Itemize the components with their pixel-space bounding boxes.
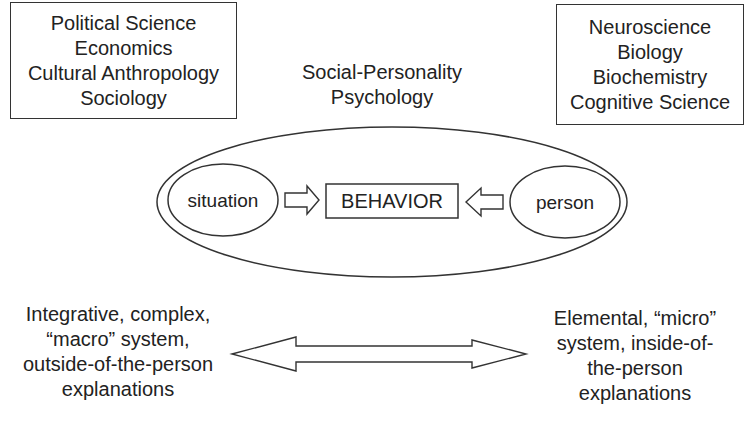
micro-line-1: Elemental, “micro” — [540, 306, 730, 331]
micro-line-3: the-person — [540, 356, 730, 381]
macro-explanation-text: Integrative, complex, “macro” system, ou… — [8, 302, 228, 402]
person-to-behavior-arrow — [466, 188, 503, 216]
micro-line-2: system, inside-of- — [540, 331, 730, 356]
situation-label: situation — [188, 190, 259, 211]
macro-line-2: “macro” system, — [8, 327, 228, 352]
behavior-label: BEHAVIOR — [341, 190, 443, 212]
macro-micro-double-arrow — [232, 337, 526, 371]
situation-to-behavior-arrow — [285, 186, 319, 214]
macro-line-3: outside-of-the-person — [8, 352, 228, 377]
micro-line-4: explanations — [540, 381, 730, 406]
micro-explanation-text: Elemental, “micro” system, inside-of- th… — [540, 306, 730, 406]
person-label: person — [536, 192, 594, 213]
macro-line-4: explanations — [8, 377, 228, 402]
macro-line-1: Integrative, complex, — [8, 302, 228, 327]
